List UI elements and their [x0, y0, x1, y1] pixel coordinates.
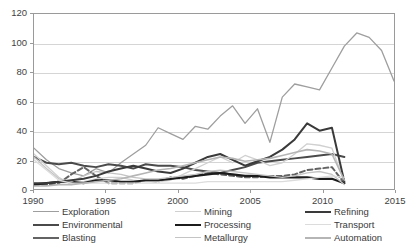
legend-swatch-icon	[175, 237, 201, 238]
legend-label: Automation	[334, 233, 382, 243]
x-axis-tick-mark	[105, 190, 106, 193]
series-lines	[34, 14, 394, 189]
legend-item-mining[interactable]: Mining	[175, 205, 251, 218]
legend-swatch-icon	[33, 224, 59, 226]
legend-item-blasting[interactable]: Blasting	[33, 231, 123, 244]
legend-swatch-icon	[305, 237, 331, 239]
y-axis-tick-label: 0	[0, 185, 27, 195]
legend-label: Environmental	[62, 220, 123, 230]
x-axis-tick-mark	[178, 190, 179, 193]
legend-item-transport[interactable]: Transport	[305, 218, 382, 231]
legend-swatch-icon	[175, 224, 201, 226]
y-axis-tick-label: 60	[0, 97, 27, 107]
legend-item-processing[interactable]: Processing	[175, 218, 251, 231]
series-line-exploration	[34, 33, 394, 176]
legend-swatch-icon	[33, 237, 59, 239]
legend-item-metallurgy[interactable]: Metallurgy	[175, 231, 251, 244]
legend-label: Processing	[204, 220, 251, 230]
y-axis-tick-label: 100	[0, 38, 27, 48]
legend-label: Metallurgy	[204, 233, 248, 243]
legend-swatch-icon	[305, 224, 331, 225]
legend-label: Exploration	[62, 207, 110, 217]
legend-item-environmental[interactable]: Environmental	[33, 218, 123, 231]
legend-column-3: RefiningTransportAutomation	[305, 205, 382, 244]
x-axis-tick-mark	[33, 190, 34, 193]
y-axis-tick-label: 80	[0, 67, 27, 77]
x-axis-tick-mark	[395, 190, 396, 193]
legend-column-2: MiningProcessingMetallurgy	[175, 205, 251, 244]
legend-item-refining[interactable]: Refining	[305, 205, 382, 218]
y-axis-tick-label: 20	[0, 156, 27, 166]
legend-column-1: ExplorationEnvironmentalBlasting	[33, 205, 123, 244]
x-axis-tick-mark	[323, 190, 324, 193]
legend-item-automation[interactable]: Automation	[305, 231, 382, 244]
legend-item-exploration[interactable]: Exploration	[33, 205, 123, 218]
chart-legend: ExplorationEnvironmentalBlasting MiningP…	[0, 205, 417, 250]
legend-swatch-icon	[305, 211, 331, 213]
legend-label: Blasting	[62, 233, 96, 243]
x-axis-tick-mark	[250, 190, 251, 193]
legend-swatch-icon	[33, 211, 59, 212]
legend-label: Refining	[334, 207, 369, 217]
legend-swatch-icon	[175, 211, 201, 212]
legend-label: Mining	[204, 207, 232, 217]
line-chart: 120100806040200 199019952000200520102015…	[0, 0, 417, 250]
y-axis-tick-label: 120	[0, 8, 27, 18]
legend-label: Transport	[334, 220, 374, 230]
y-axis-tick-label: 40	[0, 126, 27, 136]
plot-area	[33, 13, 395, 190]
